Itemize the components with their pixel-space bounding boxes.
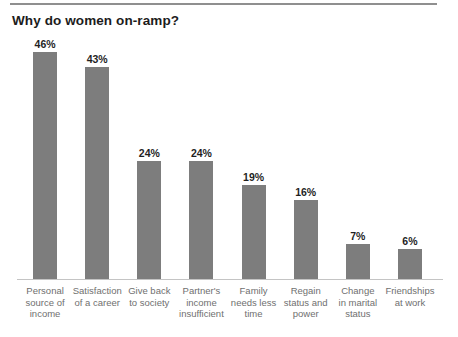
bar: [242, 185, 266, 279]
bar: [398, 249, 422, 279]
category-label: Satisfaction of a career: [71, 285, 123, 320]
bar-value-label: 7%: [350, 231, 365, 242]
bar: [137, 161, 161, 279]
bar: [294, 200, 318, 279]
bar-value-label: 43%: [87, 54, 108, 65]
page-container: Why do women on-ramp? 46%43%24%24%19%16%…: [0, 0, 458, 337]
category-label: Personal source of income: [19, 285, 71, 320]
bar-column: 7%: [332, 0, 384, 279]
category-label: Give back to society: [123, 285, 175, 320]
labels-row: Personal source of incomeSatisfaction of…: [19, 285, 436, 320]
x-axis-baseline: [17, 279, 443, 280]
bar-column: 16%: [280, 0, 332, 279]
category-label: Family needs less time: [228, 285, 280, 320]
bar-column: 24%: [123, 0, 175, 279]
bar-value-label: 24%: [191, 148, 212, 159]
bar-column: 19%: [228, 0, 280, 279]
category-label: Regain status and power: [280, 285, 332, 320]
category-label: Change in marital status: [332, 285, 384, 320]
bars-row: 46%43%24%24%19%16%7%6%: [19, 0, 436, 279]
bar-value-label: 46%: [35, 39, 56, 50]
bar-value-label: 16%: [295, 187, 316, 198]
bar: [346, 244, 370, 279]
bar-value-label: 6%: [402, 236, 417, 247]
bar: [189, 161, 213, 279]
bar-column: 24%: [175, 0, 227, 279]
category-label: Friendships at work: [384, 285, 436, 320]
bar: [33, 52, 57, 279]
bar-column: 6%: [384, 0, 436, 279]
bar-value-label: 19%: [243, 172, 264, 183]
bar-column: 43%: [71, 0, 123, 279]
bar-column: 46%: [19, 0, 71, 279]
category-label: Partner's income insufficient: [175, 285, 227, 320]
bar-value-label: 24%: [139, 148, 160, 159]
bar: [85, 67, 109, 279]
